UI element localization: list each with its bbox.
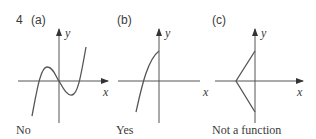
graphs-canvas — [0, 0, 316, 139]
graph-a-y-label: y — [65, 27, 70, 39]
graph-b-y-label: y — [165, 27, 170, 39]
graph-c-y-label: y — [261, 27, 266, 39]
graph-a-x-label: x — [103, 86, 108, 98]
panel-b-label: (b) — [117, 14, 132, 26]
panel-c-label: (c) — [212, 14, 226, 26]
panel-a-label: (a) — [31, 14, 46, 26]
answer-a: No — [16, 124, 31, 136]
graph-c-x-label: x — [297, 86, 302, 98]
graph-c — [215, 29, 303, 123]
graph-b-x-label: x — [203, 86, 208, 98]
answer-c: Not a function — [212, 124, 281, 136]
graph-a — [18, 29, 108, 123]
graph-b — [118, 29, 200, 123]
question-number: 4 — [16, 14, 23, 26]
answer-b: Yes — [116, 124, 133, 136]
